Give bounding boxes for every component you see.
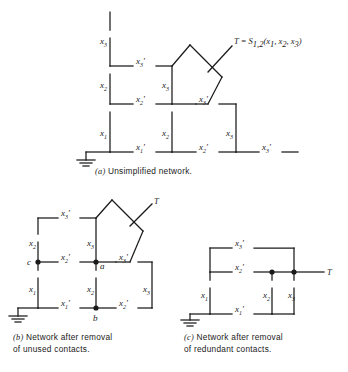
figure-b-unused-contacts-removed: x3′ x2 x3 x2′ x3′ x1 x2 x3 x1′ x2′ c a b… xyxy=(0,196,175,328)
panel-c-wires xyxy=(181,248,324,326)
contact-label-b-x2-row4-mid: x2 xyxy=(86,284,94,296)
output-terminal-label-c: T xyxy=(327,267,333,277)
node-junction-right-dot xyxy=(291,269,296,274)
contact-label-b-x1p-bottom: x1′ xyxy=(60,298,71,310)
contact-label-c-x2-branch: x2 xyxy=(262,290,270,302)
node-junction-left-dot xyxy=(269,269,274,274)
caption-b: (b) Network after removal of unused cont… xyxy=(13,332,173,355)
contact-label-x1-row4-left: x1 xyxy=(99,128,107,140)
contact-label-b-x3p-row3-mid: x3′ xyxy=(118,252,129,264)
contact-label-b-x3-row2-mid: x3 xyxy=(86,238,94,250)
node-label-b: b xyxy=(93,313,98,323)
contact-label-b-x3p-row1: x3′ xyxy=(60,208,71,220)
caption-b-tag: (b) xyxy=(13,333,23,342)
contact-label-x2-row2-left: x2 xyxy=(99,80,107,92)
contact-label-b-x2-row2-left: x2 xyxy=(28,238,36,250)
output-function-label: T = S1,2(x1, x2, x3) xyxy=(234,36,302,49)
node-label-c: c xyxy=(27,257,31,267)
contact-label-b-x3-row4-right: x3 xyxy=(142,284,150,296)
contact-label-x3-top-left: x3 xyxy=(99,36,107,48)
caption-c-tag: (c) xyxy=(184,333,194,342)
node-a-dot xyxy=(93,259,98,264)
node-c-dot xyxy=(35,259,40,264)
contact-label-b-x2p-row3-left: x2′ xyxy=(60,252,71,264)
contact-label-x3p-row3-mid: x3′ xyxy=(198,94,209,106)
contact-label-x2p-row3-left: x2′ xyxy=(135,94,146,106)
node-label-a: a xyxy=(100,261,105,271)
figure-a-unsimplified-network: x3 x3′ x2 x3 x2′ x3′ x1 x2 x3 x1′ x2′ x3… xyxy=(0,0,348,165)
contact-label-x2p-bottom-mid: x2′ xyxy=(198,142,209,154)
figure-c-redundant-contacts-removed: x3′ x2′ x1 x2 x3 x1′ T xyxy=(176,230,348,328)
contact-label-c-x2p-mid: x2′ xyxy=(234,262,245,274)
caption-b-text-line1: Network after removal xyxy=(26,332,112,342)
contact-label-b-x1-row4-left: x1 xyxy=(28,284,36,296)
contact-label-x3p-bottom-right: x3′ xyxy=(261,142,272,154)
caption-a-text: Unsimplified network. xyxy=(108,166,192,176)
caption-c-text-line1: Network after removal xyxy=(197,332,283,342)
node-b-dot xyxy=(93,305,98,310)
contact-label-c-x1-left: x1 xyxy=(200,290,208,302)
caption-c-text-line2: of redundant contacts. xyxy=(184,344,272,354)
output-terminal-label-b: T xyxy=(154,196,160,206)
contact-label-c-x3p-top: x3′ xyxy=(234,238,245,250)
caption-c: (c) Network after removal of redundant c… xyxy=(184,332,348,355)
caption-a-tag: (a) xyxy=(95,167,105,176)
caption-a: (a) Unsimplified network. xyxy=(95,166,295,178)
contact-label-c-x1p-bottom: x1′ xyxy=(234,304,245,316)
contact-label-x3p-row1: x3′ xyxy=(135,56,146,68)
caption-b-text-line2: of unused contacts. xyxy=(13,344,90,354)
contact-label-x3-row4-right: x3 xyxy=(225,128,233,140)
contact-label-x1p-bottom-left: x1′ xyxy=(135,142,146,154)
contact-label-b-x2p-bottom: x2′ xyxy=(118,298,129,310)
contact-label-x2-row4-mid: x2 xyxy=(161,128,169,140)
contact-label-x3-row2-mid: x3 xyxy=(161,80,169,92)
